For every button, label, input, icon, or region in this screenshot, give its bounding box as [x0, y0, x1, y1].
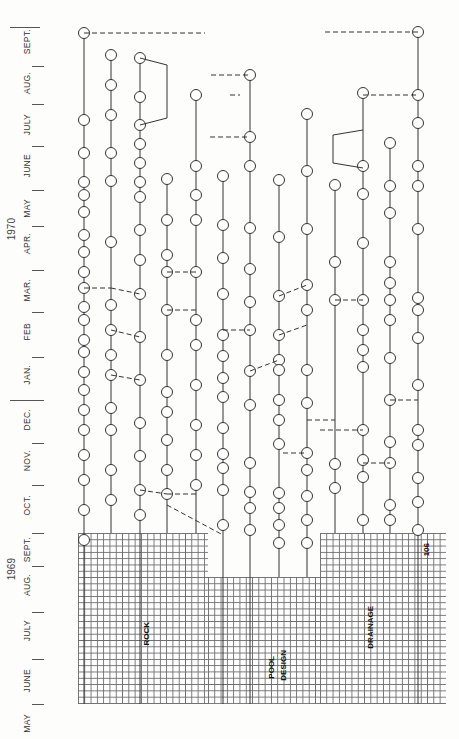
event-node [413, 440, 424, 451]
event-node [79, 405, 90, 416]
event-node [162, 215, 173, 226]
event-node [274, 503, 285, 514]
event-node [218, 463, 229, 474]
event-node [385, 437, 396, 448]
event-node [162, 407, 173, 418]
event-node [79, 148, 90, 159]
event-node [302, 166, 313, 177]
event-node [191, 90, 202, 101]
network-diagram [0, 0, 459, 739]
event-node [191, 420, 202, 431]
event-node [162, 435, 173, 446]
event-node [245, 297, 256, 308]
event-node [385, 500, 396, 511]
event-node [135, 158, 146, 169]
event-node [79, 230, 90, 241]
event-node [191, 161, 202, 172]
event-node [330, 483, 341, 494]
event-node [274, 365, 285, 376]
event-node [79, 335, 90, 346]
event-node [79, 247, 90, 258]
event-node [330, 180, 341, 191]
event-node [385, 208, 396, 219]
event-node [274, 439, 285, 450]
event-node [413, 293, 424, 304]
event-node [191, 215, 202, 226]
event-node [191, 480, 202, 491]
event-node [106, 300, 117, 311]
event-node [79, 177, 90, 188]
event-node [191, 380, 202, 391]
event-node [106, 495, 117, 506]
event-node [413, 525, 424, 536]
event-node [385, 515, 396, 526]
event-node [135, 139, 146, 150]
event-node [135, 92, 146, 103]
event-node [162, 174, 173, 185]
event-node [413, 425, 424, 436]
event-node [218, 373, 229, 384]
event-node [358, 189, 369, 200]
event-node [358, 472, 369, 483]
event-node [162, 387, 173, 398]
event-node [330, 459, 341, 470]
event-node [79, 302, 90, 313]
event-node [274, 488, 285, 499]
event-node [274, 520, 285, 531]
event-node [358, 455, 369, 466]
event-node [106, 350, 117, 361]
event-node [218, 392, 229, 403]
event-node [79, 535, 90, 546]
event-node [79, 267, 90, 278]
event-node [302, 491, 313, 502]
event-node [302, 515, 313, 526]
event-node [106, 80, 117, 91]
event-node [218, 220, 229, 231]
event-node [79, 207, 90, 218]
event-node [79, 385, 90, 396]
event-node [135, 225, 146, 236]
event-node [218, 351, 229, 362]
event-node [106, 237, 117, 248]
event-node [79, 450, 90, 461]
event-node [358, 88, 369, 99]
event-node [245, 223, 256, 234]
event-node [218, 423, 229, 434]
event-node [218, 485, 229, 496]
event-node [79, 475, 90, 486]
event-node [385, 257, 396, 268]
event-node [302, 465, 313, 476]
event-node [413, 118, 424, 129]
event-node [191, 315, 202, 326]
event-node [79, 190, 90, 201]
event-node [135, 255, 146, 266]
event-node [218, 289, 229, 300]
event-node [106, 50, 117, 61]
event-node [245, 161, 256, 172]
event-node [245, 525, 256, 536]
event-node [106, 148, 117, 159]
event-node [106, 403, 117, 414]
event-node [135, 177, 146, 188]
event-node [385, 138, 396, 149]
event-node [79, 367, 90, 378]
event-node [106, 110, 117, 121]
event-node [135, 418, 146, 429]
event-node [302, 109, 313, 120]
event-node [413, 473, 424, 484]
event-node [302, 224, 313, 235]
event-node [413, 380, 424, 391]
event-node [358, 345, 369, 356]
event-node [245, 400, 256, 411]
event-node [191, 450, 202, 461]
event-node [385, 181, 396, 192]
event-node [358, 515, 369, 526]
event-node [218, 520, 229, 531]
event-node [79, 347, 90, 358]
event-node [274, 232, 285, 243]
event-node [302, 538, 313, 549]
event-node [413, 181, 424, 192]
event-node [274, 175, 285, 186]
event-node [162, 465, 173, 476]
event-node [218, 330, 229, 341]
